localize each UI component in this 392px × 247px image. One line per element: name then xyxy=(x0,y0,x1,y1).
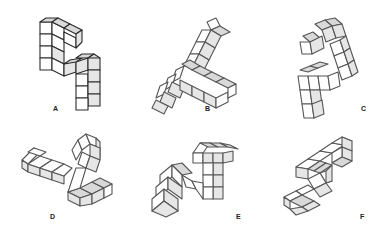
figure-label-d: D xyxy=(50,213,55,220)
figure-label-c: C xyxy=(361,105,366,112)
cube-figures-canvas xyxy=(0,0,392,247)
figure-f xyxy=(284,137,352,215)
figure-b xyxy=(152,18,236,114)
figure-label-b: B xyxy=(205,105,210,112)
figure-label-e: E xyxy=(236,213,241,220)
figure-label-f: F xyxy=(360,213,364,220)
figure-c xyxy=(298,18,358,118)
figure-a xyxy=(40,18,100,110)
figure-e xyxy=(152,143,238,217)
figure-label-a: A xyxy=(53,105,58,112)
figure-d xyxy=(22,134,112,206)
